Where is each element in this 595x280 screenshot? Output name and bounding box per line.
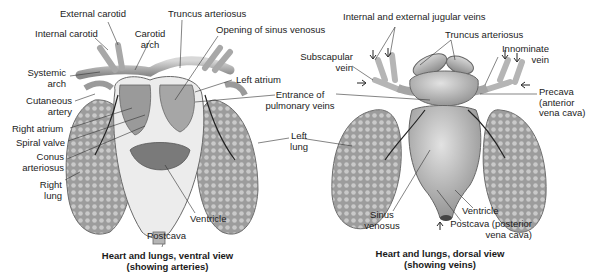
- label-sinus-venosus: Sinus venosus: [362, 210, 402, 231]
- label-jugular-veins: Internal and external jugular veins: [343, 12, 486, 23]
- label-ventricle-dorsal: Ventricle: [462, 206, 498, 217]
- label-carotid-arch: Carotid arch: [132, 29, 168, 50]
- label-right-lung: Right lung: [20, 180, 62, 201]
- ventral-view-illustration: [66, 45, 258, 244]
- dorsal-caption: Heart and lungs, dorsal view (showing ve…: [365, 248, 515, 270]
- label-internal-carotid: Internal carotid: [35, 29, 98, 40]
- label-ventricle-ventral: Ventricle: [190, 214, 226, 225]
- label-cutaneous-artery: Cutaneous artery: [20, 96, 72, 117]
- label-entrance-pulmonary-veins: Entrance of pulmonary veins: [262, 90, 338, 111]
- label-precava: Precava (anterior vena cava): [539, 87, 585, 119]
- dorsal-heart-shape: [409, 106, 481, 219]
- label-left-lung-ventral: Left lung: [288, 131, 310, 152]
- label-opening-sinus-venosus: Opening of sinus venosus: [216, 25, 325, 36]
- label-spiral-valve: Spiral valve: [16, 138, 65, 149]
- label-innominate-vein: Innominate vein: [495, 44, 549, 65]
- label-postcava-dorsal: Postcava (posterior vena cava): [448, 219, 532, 240]
- ventral-caption: Heart and lungs, ventral view (showing a…: [95, 250, 240, 272]
- label-left-atrium: Left atrium: [236, 75, 281, 86]
- label-systemic-arch: Systemic arch: [20, 68, 66, 89]
- label-truncus-arteriosus-ventral: Truncus arteriosus: [168, 9, 246, 20]
- label-conus-arteriosus: Conus arteriosus: [10, 152, 64, 173]
- dorsal-view-illustration: [332, 48, 546, 232]
- label-right-atrium: Right atrium: [12, 124, 63, 135]
- label-external-carotid: External carotid: [60, 9, 126, 20]
- label-subscapular-vein: Subscapular vein: [295, 52, 353, 73]
- label-truncus-arteriosus-dorsal: Truncus arteriosus: [445, 30, 523, 41]
- label-postcava-ventral: Postcava: [147, 231, 186, 242]
